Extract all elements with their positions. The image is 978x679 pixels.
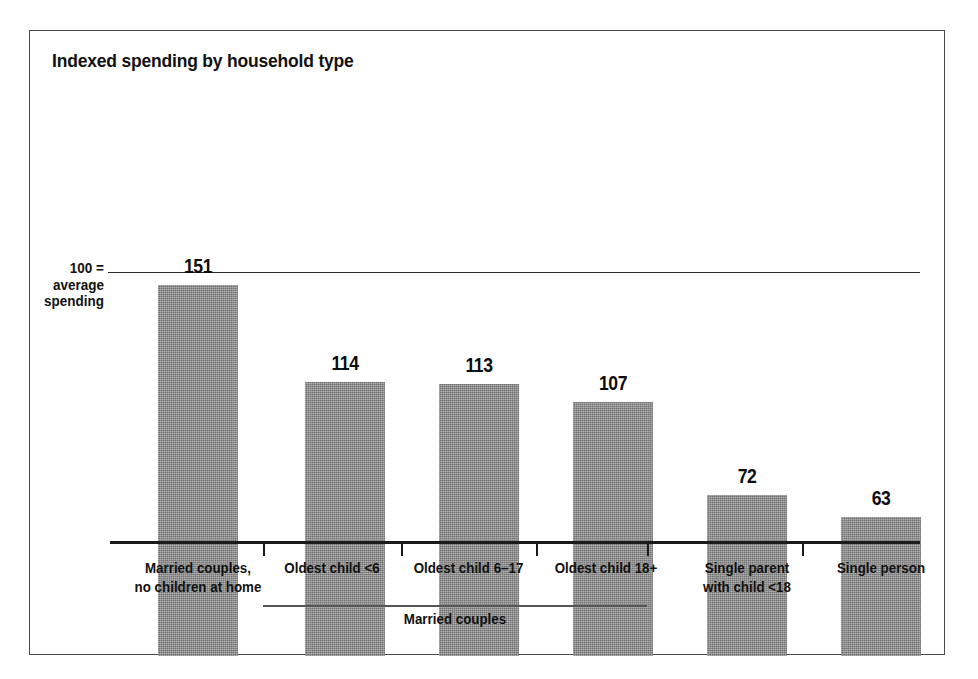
category-label: Oldest child 6–17 [402, 559, 535, 578]
bar-item[interactable]: 63 [841, 146, 921, 656]
y-axis-label-line-2: average [43, 277, 104, 294]
bar-rect [158, 285, 238, 656]
category-label: Single person [817, 559, 946, 578]
bar-item[interactable]: 113 [439, 146, 519, 656]
y-axis-reference-label: 100 = average spending [43, 260, 104, 310]
group-label: Married couples [278, 611, 631, 627]
bar-value-label: 107 [551, 372, 674, 395]
x-axis-baseline [110, 541, 920, 544]
plot-area: 100 = average spending 151 114 113 107 [30, 31, 946, 656]
category-label-line: Oldest child 6–17 [402, 559, 535, 578]
bar-value-label: 72 [685, 465, 808, 488]
bar-item[interactable]: 114 [305, 146, 385, 656]
bar-item[interactable]: 107 [573, 146, 653, 656]
axis-tick-separator [401, 542, 403, 556]
category-label: Single parent with child <18 [673, 559, 820, 597]
y-axis-label-line-1: 100 = [43, 260, 104, 277]
axis-tick-separator [536, 542, 538, 556]
category-label-line: Single parent [673, 559, 820, 578]
group-bracket-rule [263, 605, 647, 607]
y-axis-label-line-3: spending [43, 293, 104, 310]
category-label-line: Oldest child <6 [269, 559, 396, 578]
bar-value-label: 113 [417, 354, 540, 377]
chart-frame: Indexed spending by household type 100 =… [29, 30, 945, 655]
category-label: Oldest child 18+ [542, 559, 671, 578]
bar-rect [841, 517, 921, 656]
category-label-line: no children at home [97, 578, 299, 597]
axis-tick-separator [647, 542, 649, 556]
category-label-line: Oldest child 18+ [542, 559, 671, 578]
bar-value-label: 63 [819, 487, 942, 510]
bar-value-label: 151 [136, 255, 259, 278]
category-label-line: Single person [817, 559, 946, 578]
category-label-line: with child <18 [673, 578, 820, 597]
bar-value-label: 114 [283, 352, 406, 375]
axis-tick-separator [802, 542, 804, 556]
axis-tick-separator [263, 542, 265, 556]
scan-page-background: Indexed spending by household type 100 =… [0, 0, 978, 679]
category-label: Oldest child <6 [269, 559, 396, 578]
